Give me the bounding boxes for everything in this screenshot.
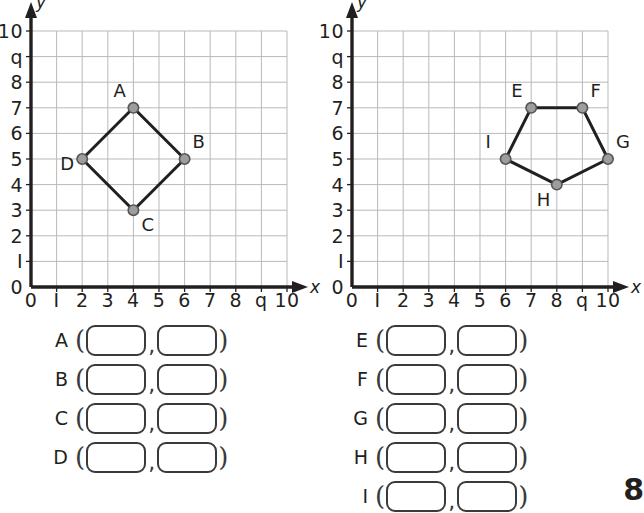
close-paren: ) xyxy=(218,327,228,353)
answer-row-E: E(,) xyxy=(346,321,528,359)
y-axis-tick-label: 3 xyxy=(314,201,344,221)
open-paren: ( xyxy=(75,444,85,470)
answer-row-letter: D xyxy=(46,448,68,467)
point-label-E: E xyxy=(511,82,522,100)
vertex-point-H xyxy=(552,179,562,189)
open-paren: ( xyxy=(375,366,385,392)
y-axis-tick-label: q xyxy=(314,48,344,68)
x-coordinate-input-D[interactable] xyxy=(86,442,146,473)
close-paren: ) xyxy=(518,366,528,392)
y-coordinate-input-D[interactable] xyxy=(157,442,217,473)
close-paren: ) xyxy=(518,327,528,353)
y-axis-tick-label: I xyxy=(0,252,23,272)
y-axis-tick-label: q xyxy=(0,48,23,68)
y-axis-name: y xyxy=(357,0,367,11)
vertex-point-F xyxy=(577,103,587,113)
x-coordinate-input-A[interactable] xyxy=(86,325,146,356)
answer-row-letter: E xyxy=(346,331,368,350)
answer-row-letter: A xyxy=(46,331,68,350)
x-coordinate-input-G[interactable] xyxy=(386,403,446,434)
point-label-D: D xyxy=(60,155,74,173)
y-axis-tick-label: 4 xyxy=(314,176,344,196)
grid-svg-right xyxy=(321,0,641,310)
y-coordinate-input-G[interactable] xyxy=(457,403,517,434)
x-coordinate-input-F[interactable] xyxy=(386,364,446,395)
answer-row-letter: C xyxy=(46,409,68,428)
vertex-point-D xyxy=(77,154,87,164)
open-paren: ( xyxy=(75,366,85,392)
answer-row-letter: B xyxy=(46,370,68,389)
comma-separator: , xyxy=(447,374,456,396)
y-coordinate-input-C[interactable] xyxy=(157,403,217,434)
x-coordinate-input-C[interactable] xyxy=(86,403,146,434)
answer-row-letter: H xyxy=(346,448,368,467)
y-coordinate-input-F[interactable] xyxy=(457,364,517,395)
point-label-G: G xyxy=(616,133,630,151)
x-axis-tick-label: 10 xyxy=(593,291,623,310)
point-label-A: A xyxy=(113,82,125,100)
y-axis-tick-label: 0 xyxy=(0,278,23,298)
close-paren: ) xyxy=(218,444,228,470)
y-axis-tick-label: 4 xyxy=(0,176,23,196)
answer-row-D: D(,) xyxy=(46,438,228,476)
x-coordinate-input-B[interactable] xyxy=(86,364,146,395)
vertex-point-G xyxy=(603,154,613,164)
y-coordinate-input-B[interactable] xyxy=(157,364,217,395)
y-axis-name: y xyxy=(36,0,46,11)
coordinate-grid-left: 0I2345678q1010q8765432I0 xyABCD xyxy=(0,0,320,310)
vertex-point-B xyxy=(179,154,189,164)
close-paren: ) xyxy=(218,366,228,392)
y-axis-tick-label: 10 xyxy=(314,22,344,42)
y-axis-tick-label: 8 xyxy=(0,73,23,93)
answer-row-F: F(,) xyxy=(346,360,528,398)
comma-separator: , xyxy=(147,335,156,357)
point-label-C: C xyxy=(141,216,154,234)
close-paren: ) xyxy=(518,444,528,470)
answer-row-C: C(,) xyxy=(46,399,228,437)
y-axis-tick-label: 5 xyxy=(0,150,23,170)
vertex-point-I xyxy=(500,154,510,164)
y-axis-tick-label: 6 xyxy=(314,124,344,144)
close-paren: ) xyxy=(218,405,228,431)
answer-row-H: H(,) xyxy=(346,438,528,476)
vertex-point-C xyxy=(128,205,138,215)
open-paren: ( xyxy=(75,327,85,353)
x-axis-name: x xyxy=(631,279,641,296)
answer-row-G: G(,) xyxy=(346,399,528,437)
coordinate-grid-right: 0I2345678q1010q8765432I0 xyEFGHI xyxy=(321,0,641,310)
x-axis-tick-label: 10 xyxy=(272,291,302,310)
close-paren: ) xyxy=(518,405,528,431)
answer-row-letter: I xyxy=(346,487,368,506)
point-label-I: I xyxy=(486,133,491,151)
x-coordinate-input-H[interactable] xyxy=(386,442,446,473)
point-label-H: H xyxy=(537,191,551,209)
open-paren: ( xyxy=(375,327,385,353)
answer-row-letter: G xyxy=(346,409,368,428)
y-coordinate-input-E[interactable] xyxy=(457,325,517,356)
y-axis-tick-label: 7 xyxy=(0,99,23,119)
y-axis-tick-label: 7 xyxy=(314,99,344,119)
answer-row-A: A(,) xyxy=(46,321,228,359)
comma-separator: , xyxy=(447,491,456,513)
y-coordinate-input-I[interactable] xyxy=(457,481,517,512)
y-coordinate-input-A[interactable] xyxy=(157,325,217,356)
answer-row-letter: F xyxy=(346,370,368,389)
y-axis-tick-label: 10 xyxy=(0,22,23,42)
open-paren: ( xyxy=(375,483,385,509)
y-axis-tick-label: 3 xyxy=(0,201,23,221)
grid-svg-left xyxy=(0,0,320,310)
vertex-point-E xyxy=(526,103,536,113)
open-paren: ( xyxy=(375,444,385,470)
comma-separator: , xyxy=(147,374,156,396)
comma-separator: , xyxy=(447,413,456,435)
point-label-B: B xyxy=(193,133,205,151)
y-coordinate-input-H[interactable] xyxy=(457,442,517,473)
y-axis-tick-label: I xyxy=(314,252,344,272)
open-paren: ( xyxy=(75,405,85,431)
point-label-F: F xyxy=(590,82,600,100)
x-coordinate-input-I[interactable] xyxy=(386,481,446,512)
comma-separator: , xyxy=(447,452,456,474)
y-axis-tick-label: 0 xyxy=(314,278,344,298)
comma-separator: , xyxy=(147,413,156,435)
x-coordinate-input-E[interactable] xyxy=(386,325,446,356)
